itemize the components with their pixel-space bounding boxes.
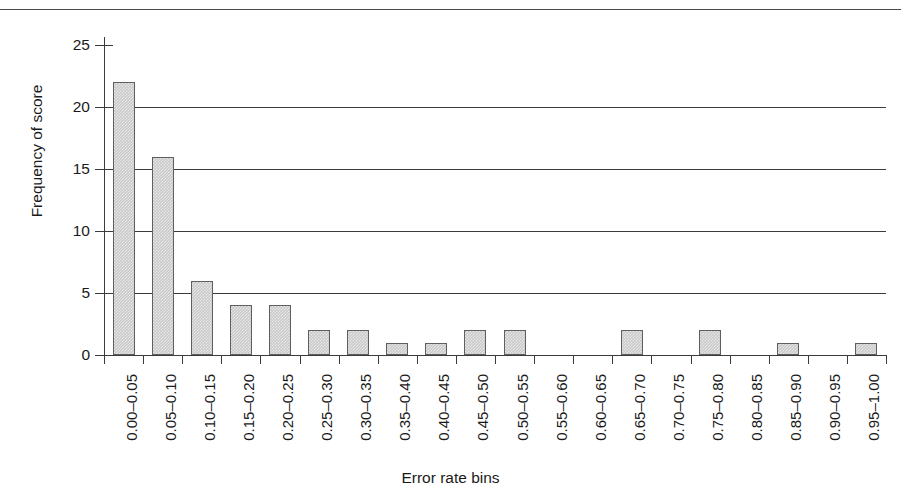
bar-0.40–0.45[interactable] — [425, 343, 447, 355]
x-tick-2 — [182, 355, 183, 364]
x-tick-13 — [612, 355, 613, 364]
bar-0.05–0.10[interactable] — [152, 157, 174, 355]
y-tick-label-5: 5 — [44, 284, 90, 302]
x-tick-7 — [378, 355, 379, 364]
x-tick-label-0.05–0.10: 0.05–0.10 — [163, 374, 179, 470]
x-axis-title: Error rate bins — [0, 469, 901, 487]
bar-0.75–0.80[interactable] — [699, 330, 721, 355]
header-rule — [0, 9, 901, 10]
y-tick-5 — [95, 293, 113, 294]
x-axis-ticks — [104, 355, 886, 365]
bar-0.35–0.40[interactable] — [386, 343, 408, 355]
running-head-band — [0, 0, 901, 14]
x-tick-3 — [221, 355, 222, 364]
bar-0.45–0.50[interactable] — [464, 330, 486, 355]
x-tick-label-0.45–0.50: 0.45–0.50 — [475, 374, 491, 470]
x-tick-label-0.90–0.95: 0.90–0.95 — [827, 374, 843, 470]
x-tick-label-0.40–0.45: 0.40–0.45 — [436, 374, 452, 470]
x-tick-label-0.00–0.05: 0.00–0.05 — [124, 374, 140, 470]
bar-0.30–0.35[interactable] — [347, 330, 369, 355]
x-tick-10 — [495, 355, 496, 364]
running-head-text — [62, 0, 842, 2]
bar-0.65–0.70[interactable] — [621, 330, 643, 355]
x-tick-label-0.65–0.70: 0.65–0.70 — [632, 374, 648, 470]
x-tick-label-0.20–0.25: 0.20–0.25 — [280, 374, 296, 470]
x-tick-17 — [769, 355, 770, 364]
bar-0.95–1.00[interactable] — [855, 343, 877, 355]
x-tick-5 — [300, 355, 301, 364]
x-tick-label-0.75–0.80: 0.75–0.80 — [710, 374, 726, 470]
bar-0.10–0.15[interactable] — [191, 281, 213, 355]
x-tick-9 — [456, 355, 457, 364]
histogram-chart: Frequency of score 0510152025 0.00–0.050… — [0, 14, 901, 503]
y-tick-0 — [95, 355, 113, 356]
x-tick-label-0.80–0.85: 0.80–0.85 — [749, 374, 765, 470]
x-tick-label-0.55–0.60: 0.55–0.60 — [554, 374, 570, 470]
x-tick-label-0.95–1.00: 0.95–1.00 — [866, 374, 882, 470]
y-tick-label-0: 0 — [44, 346, 90, 364]
x-tick-label-0.50–0.55: 0.50–0.55 — [515, 374, 531, 470]
bar-0.00–0.05[interactable] — [113, 82, 135, 355]
bar-series — [104, 37, 886, 355]
y-tick-label-20: 20 — [44, 98, 90, 116]
bar-0.20–0.25[interactable] — [269, 305, 291, 355]
y-tick-20 — [95, 107, 113, 108]
y-tick-25 — [95, 45, 113, 46]
y-tick-label-25: 25 — [44, 36, 90, 54]
bar-0.85–0.90[interactable] — [777, 343, 799, 355]
x-tick-16 — [730, 355, 731, 364]
x-tick-label-0.30–0.35: 0.30–0.35 — [358, 374, 374, 470]
x-tick-18 — [808, 355, 809, 364]
y-tick-label-10: 10 — [44, 222, 90, 240]
bar-0.15–0.20[interactable] — [230, 305, 252, 355]
x-tick-label-0.35–0.40: 0.35–0.40 — [397, 374, 413, 470]
bar-0.50–0.55[interactable] — [504, 330, 526, 355]
x-tick-label-0.15–0.20: 0.15–0.20 — [241, 374, 257, 470]
x-tick-8 — [417, 355, 418, 364]
bar-0.25–0.30[interactable] — [308, 330, 330, 355]
y-tick-label-15: 15 — [44, 160, 90, 178]
x-tick-0 — [104, 355, 105, 364]
x-tick-15 — [691, 355, 692, 364]
x-tick-end — [886, 355, 887, 364]
x-tick-12 — [573, 355, 574, 364]
y-tick-15 — [95, 169, 113, 170]
x-tick-label-0.10–0.15: 0.10–0.15 — [202, 374, 218, 470]
x-tick-4 — [260, 355, 261, 364]
x-tick-label-0.85–0.90: 0.85–0.90 — [788, 374, 804, 470]
x-tick-19 — [847, 355, 848, 364]
x-tick-11 — [534, 355, 535, 364]
x-axis-tick-labels: 0.00–0.050.05–0.100.10–0.150.15–0.200.20… — [104, 366, 886, 462]
x-tick-label-0.25–0.30: 0.25–0.30 — [319, 374, 335, 470]
x-tick-label-0.70–0.75: 0.70–0.75 — [671, 374, 687, 470]
y-tick-10 — [95, 231, 113, 232]
x-tick-1 — [143, 355, 144, 364]
x-tick-6 — [339, 355, 340, 364]
x-tick-label-0.60–0.65: 0.60–0.65 — [593, 374, 609, 470]
y-axis-tick-labels: 0510152025 — [36, 14, 90, 503]
x-tick-14 — [651, 355, 652, 364]
